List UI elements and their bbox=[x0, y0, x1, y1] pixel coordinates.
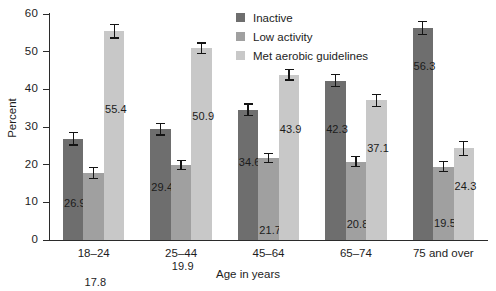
bar bbox=[63, 139, 84, 240]
bar-value-label: 42.3 bbox=[326, 123, 348, 135]
error-bar-cap bbox=[439, 161, 448, 162]
error-bar-cap bbox=[110, 24, 119, 25]
y-axis-tick-label: 10 bbox=[25, 195, 38, 207]
y-axis-tick bbox=[43, 89, 49, 90]
y-axis-tick bbox=[43, 14, 49, 15]
bar-value-label: 19.9 bbox=[172, 260, 194, 272]
x-axis-category-label: 18–24 bbox=[50, 247, 137, 259]
error-bar-cap bbox=[459, 155, 468, 156]
y-axis-tick bbox=[43, 164, 49, 165]
error-bar bbox=[114, 25, 115, 39]
bar-value-label: 55.4 bbox=[105, 103, 127, 115]
legend-label: Low activity bbox=[253, 31, 312, 43]
error-bar bbox=[376, 94, 377, 106]
error-bar bbox=[335, 75, 336, 87]
bar-value-label: 43.9 bbox=[280, 123, 302, 135]
error-bar bbox=[160, 124, 161, 135]
error-bar-cap bbox=[331, 74, 340, 75]
y-axis-tick bbox=[43, 51, 49, 52]
error-bar-cap bbox=[69, 144, 78, 145]
error-bar-cap bbox=[156, 123, 165, 124]
bar bbox=[433, 167, 454, 240]
bar-value-label: 37.1 bbox=[367, 142, 389, 154]
y-axis-tick-label: 20 bbox=[25, 158, 38, 170]
bar bbox=[325, 81, 346, 240]
bar-value-label: 24.3 bbox=[455, 180, 477, 192]
error-bar-cap bbox=[177, 160, 186, 161]
x-axis-title: Age in years bbox=[0, 268, 496, 280]
bar bbox=[238, 110, 259, 240]
error-bar-cap bbox=[110, 37, 119, 38]
x-axis-line bbox=[49, 240, 488, 241]
error-bar-cap bbox=[285, 69, 294, 70]
bar bbox=[83, 173, 104, 240]
legend-item: Low activity bbox=[236, 28, 368, 45]
bar-value-label: 50.9 bbox=[192, 110, 214, 122]
error-bar-cap bbox=[285, 79, 294, 80]
error-bar-cap bbox=[197, 53, 206, 54]
x-axis-category-label: 65–74 bbox=[312, 247, 399, 259]
y-axis-title: Percent bbox=[6, 98, 18, 138]
y-axis-tick-label: 0 bbox=[31, 233, 38, 245]
error-bar-cap bbox=[156, 134, 165, 135]
legend-item: Met aerobic guidelines bbox=[236, 47, 368, 64]
error-bar-cap bbox=[89, 167, 98, 168]
bar-chart: Percent Age in years 0102030405060 18–24… bbox=[0, 0, 496, 291]
error-bar-cap bbox=[351, 166, 360, 167]
error-bar-cap bbox=[264, 153, 273, 154]
legend-label: Met aerobic guidelines bbox=[253, 50, 368, 62]
legend-label: Inactive bbox=[253, 12, 293, 24]
error-bar-cap bbox=[177, 169, 186, 170]
bar bbox=[191, 48, 212, 240]
bar-value-label: 17.8 bbox=[84, 276, 106, 288]
y-axis-tick bbox=[43, 240, 49, 241]
error-bar-cap bbox=[244, 115, 253, 116]
bar bbox=[454, 148, 475, 240]
bar bbox=[171, 165, 192, 240]
y-axis-tick-label: 60 bbox=[25, 7, 38, 19]
y-axis-tick bbox=[43, 127, 49, 128]
y-axis-tick-label: 50 bbox=[25, 45, 38, 57]
error-bar bbox=[247, 104, 248, 115]
error-bar bbox=[93, 167, 94, 178]
legend-swatch-icon bbox=[236, 13, 245, 22]
error-bar-cap bbox=[89, 178, 98, 179]
error-bar bbox=[463, 142, 464, 156]
error-bar-cap bbox=[459, 141, 468, 142]
bar bbox=[104, 31, 125, 240]
error-bar-cap bbox=[69, 132, 78, 133]
error-bar-cap bbox=[439, 171, 448, 172]
legend-swatch-icon bbox=[236, 51, 245, 60]
error-bar-cap bbox=[331, 86, 340, 87]
bar bbox=[366, 100, 387, 240]
error-bar bbox=[73, 132, 74, 145]
error-bar-cap bbox=[244, 103, 253, 104]
y-axis-tick-label: 30 bbox=[25, 120, 38, 132]
error-bar-cap bbox=[372, 94, 381, 95]
x-axis-category-label: 75 and over bbox=[400, 247, 487, 259]
y-axis-tick-label: 40 bbox=[25, 82, 38, 94]
error-bar-cap bbox=[372, 106, 381, 107]
x-axis-category-label: 45–64 bbox=[225, 247, 312, 259]
x-axis-category-label: 25–44 bbox=[137, 247, 224, 259]
y-axis-tick bbox=[43, 202, 49, 203]
bar-value-label: 56.3 bbox=[414, 60, 436, 72]
error-bar-cap bbox=[418, 34, 427, 35]
error-bar-cap bbox=[418, 21, 427, 22]
error-bar bbox=[422, 22, 423, 35]
error-bar-cap bbox=[264, 162, 273, 163]
legend-swatch-icon bbox=[236, 32, 245, 41]
bar bbox=[279, 75, 300, 240]
error-bar-cap bbox=[197, 42, 206, 43]
chart-legend: InactiveLow activityMet aerobic guidelin… bbox=[236, 9, 368, 66]
error-bar-cap bbox=[351, 156, 360, 157]
legend-item: Inactive bbox=[236, 9, 368, 26]
